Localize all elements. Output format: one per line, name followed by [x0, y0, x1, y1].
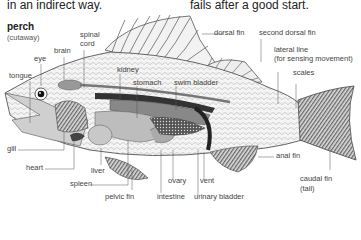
- label-kidney: kidney: [117, 66, 139, 75]
- label-dorsal-fin: dorsal fin: [214, 29, 244, 38]
- label-brain: brain: [54, 47, 71, 56]
- label-anal-fin: anal fin: [276, 152, 300, 161]
- label-intestine: intestine: [157, 193, 185, 202]
- label-swim-bladder: swim bladder: [174, 79, 218, 88]
- label-vent: vent: [200, 177, 214, 186]
- eye: [35, 88, 47, 100]
- label-pelvic-fin: pelvic fin: [105, 193, 134, 202]
- label-caudal-fin-2: (tail): [300, 185, 315, 194]
- label-spleen: spleen: [70, 180, 92, 189]
- caudal-fin: [298, 86, 356, 160]
- label-scales: scales: [293, 69, 314, 78]
- label-urinary-bladder: urinary bladder: [194, 193, 244, 202]
- brain: [58, 80, 82, 90]
- label-gill: gill: [7, 145, 16, 154]
- liver: [88, 125, 112, 145]
- label-tongue: tongue: [9, 72, 32, 81]
- label-eye: eye: [34, 55, 46, 64]
- label-spinal-cord-2: cord: [80, 40, 95, 49]
- label-heart: heart: [26, 164, 43, 173]
- label-second-dorsal-fin: second dorsal fin: [259, 29, 316, 38]
- label-ovary: ovary: [168, 177, 186, 186]
- pelvic-fin: [105, 157, 148, 180]
- label-caudal-fin-1: caudal fin: [300, 175, 332, 184]
- label-liver: liver: [91, 167, 105, 176]
- label-lateral-line-2: (for sensing movement): [274, 55, 353, 64]
- label-stomach: stomach: [133, 79, 161, 88]
